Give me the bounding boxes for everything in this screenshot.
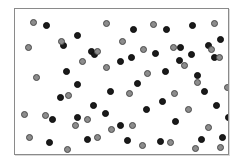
dot-black — [162, 68, 169, 75]
dot-black — [157, 138, 164, 145]
dot-black — [57, 94, 64, 101]
dot-gray — [58, 38, 65, 45]
dot-gray — [126, 90, 133, 97]
figure-root — [0, 0, 243, 164]
dot-gray — [192, 145, 199, 152]
dot-black — [74, 32, 81, 39]
dot-black — [134, 80, 141, 87]
dot-black — [201, 88, 208, 95]
dot-black — [117, 58, 124, 65]
dot-gray — [185, 106, 192, 113]
dot-gray — [139, 142, 146, 149]
dot-gray — [144, 70, 151, 77]
dot-gray — [150, 21, 157, 28]
dot-black — [107, 88, 114, 95]
dot-black — [198, 136, 205, 143]
dot-gray — [79, 58, 86, 65]
dot-gray — [25, 44, 32, 51]
dot-gray — [42, 112, 49, 119]
dot-gray — [94, 48, 101, 55]
dot-gray — [103, 64, 110, 71]
dot-black — [43, 22, 50, 29]
dot-black — [90, 102, 97, 109]
dot-gray — [194, 79, 201, 86]
dot-gray — [33, 74, 40, 81]
dot-gray — [217, 144, 224, 151]
dot-black — [177, 44, 184, 51]
dot-gray — [205, 124, 212, 131]
dot-black — [219, 134, 226, 141]
dot-gray — [167, 139, 174, 146]
dot-gray — [64, 146, 71, 153]
dot-field-frame — [14, 8, 229, 155]
dot-gray — [26, 134, 33, 141]
dot-black — [189, 22, 196, 29]
dot-gray — [72, 122, 79, 129]
dot-gray — [140, 46, 147, 53]
dot-gray — [211, 20, 218, 27]
dot-black — [213, 102, 220, 109]
dot-black — [63, 68, 70, 75]
dot-black — [225, 114, 230, 121]
dot-black — [172, 118, 179, 125]
dot-black — [117, 122, 124, 129]
dot-gray — [94, 134, 101, 141]
dot-black — [163, 26, 170, 33]
dot-scatter-layer — [15, 9, 228, 154]
dot-gray — [129, 122, 136, 129]
dot-gray — [21, 111, 28, 118]
dot-gray — [65, 92, 72, 99]
dot-black — [152, 50, 159, 57]
dot-gray — [170, 44, 177, 51]
dot-black — [74, 81, 81, 88]
dot-black — [74, 114, 81, 121]
dot-black — [46, 139, 53, 146]
dot-black — [102, 110, 109, 117]
dot-gray — [216, 54, 223, 61]
dot-gray — [181, 62, 188, 69]
dot-black — [143, 106, 150, 113]
dot-gray — [119, 38, 126, 45]
dot-black — [217, 36, 224, 43]
dot-gray — [171, 90, 178, 97]
dot-black — [49, 116, 56, 123]
dot-black — [84, 136, 91, 143]
dot-black — [130, 26, 137, 33]
dot-gray — [84, 116, 91, 123]
dot-gray — [108, 126, 115, 133]
dot-gray — [103, 20, 110, 27]
dot-gray — [208, 46, 215, 53]
dot-gray — [224, 84, 230, 91]
dot-black — [128, 54, 135, 61]
dot-black — [124, 137, 131, 144]
dot-black — [188, 51, 195, 58]
dot-black — [194, 72, 201, 79]
dot-gray — [30, 19, 37, 26]
dot-black — [159, 98, 166, 105]
